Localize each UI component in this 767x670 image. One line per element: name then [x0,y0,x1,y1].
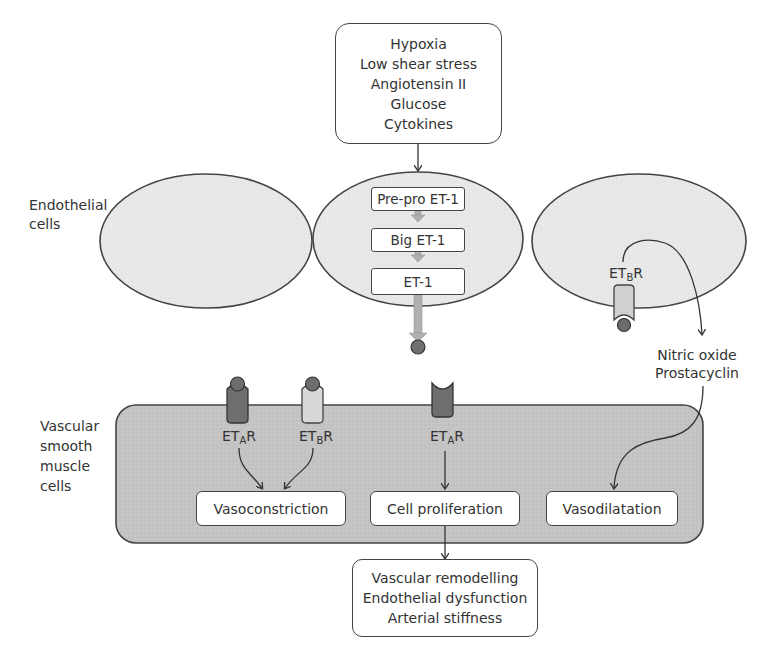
vasoconstriction-box: Vasoconstriction [196,491,346,526]
vasodilatation-box: Vasodilatation [546,491,678,526]
mediators-label: Nitric oxide Prostacyclin [655,346,739,382]
vascular-smooth-muscle-cells-label: Vascular smooth muscle cells [40,416,99,496]
mediator-prostacyclin: Prostacyclin [655,364,739,382]
mediator-nitric-oxide: Nitric oxide [655,346,739,364]
big-et1-box: Big ET-1 [371,228,465,252]
stimulus-angiotensin-ii: Angiotensin II [371,74,467,94]
endothelial-etb-receptor-icon [614,285,634,332]
endothelial-etb-receptor-label: ETBR [609,265,643,283]
cell-proliferation-box: Cell proliferation [370,491,520,526]
outcome-arterial-stiffness: Arterial stiffness [388,608,502,628]
vsmc-etb-receptor-icon [302,377,323,423]
stimulus-low-shear-stress: Low shear stress [360,54,477,74]
stimulus-hypoxia: Hypoxia [390,34,447,54]
stimulus-glucose: Glucose [391,94,447,114]
outcome-vascular-remodelling: Vascular remodelling [372,568,519,588]
endothelial-cell-left [100,174,312,308]
vsmc-eta-receptor-middle-icon [432,383,453,417]
pre-pro-et1-box: Pre-pro ET-1 [371,187,465,211]
vsmc-eta-receptor-middle-label: ETAR [430,428,464,446]
stimuli-box: Hypoxia Low shear stress Angiotensin II … [335,23,502,144]
vsmc-eta-receptor-left-icon [227,377,248,423]
endothelial-cells-label: Endothelial cells [29,196,107,234]
et1-box: ET-1 [371,268,465,295]
et1-ligand-icon [411,340,425,354]
stimulus-cytokines: Cytokines [384,114,453,134]
vsmc-eta-receptor-left-label: ETAR [222,428,256,446]
vsmc-etb-receptor-label: ETBR [299,428,333,446]
outcome-endothelial-dysfunction: Endothelial dysfunction [363,588,528,608]
outcomes-box: Vascular remodelling Endothelial dysfunc… [352,559,538,637]
